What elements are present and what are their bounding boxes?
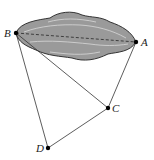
label-A: A [140, 36, 148, 48]
label-B: B [4, 27, 11, 39]
point-C [106, 106, 110, 110]
label-C: C [112, 102, 120, 114]
diagram-canvas: A B C D [0, 0, 154, 160]
segment-DC [48, 108, 108, 148]
point-B [14, 31, 18, 35]
label-D: D [35, 142, 44, 154]
point-A [134, 40, 138, 44]
point-D [46, 146, 50, 150]
